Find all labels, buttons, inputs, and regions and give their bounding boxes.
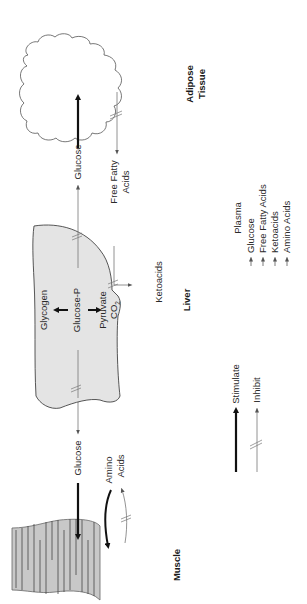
glycogen-label: Glycogen — [38, 290, 49, 330]
plasma-item-amino-acids: Amino Acids — [281, 200, 292, 253]
plasma-list: Plasma Glucose Free Fatty Acids Ketoacid… — [232, 184, 292, 266]
ketoacids-inhibit-arrow — [114, 246, 130, 285]
legend: Stimulate Inhibit — [230, 364, 262, 472]
liver-label: Liver — [181, 288, 192, 311]
plasma-item-glucose: Glucose — [245, 218, 256, 253]
ffa-label-line2: Acids — [120, 170, 131, 193]
muscle-shape — [12, 515, 100, 603]
amino-acids-inhibit-arrow — [122, 490, 127, 543]
ffa-label-line1: Free Fatty — [108, 160, 119, 204]
adipose-cloud-shape — [20, 34, 122, 142]
amino-label-line2: Acids — [115, 454, 126, 477]
ketoacids-label: Ketoacids — [153, 261, 164, 303]
adipose-glucose-label: Glucose — [72, 145, 83, 180]
glucose-p-label: Glucose-P — [71, 288, 82, 332]
plasma-title: Plasma — [232, 201, 243, 233]
amino-label-line1: Amino — [103, 457, 114, 484]
metabolism-diagram: Muscle Glucose Amino Acids Liver Glycoge… — [0, 0, 307, 604]
plasma-item-ketoacids: Ketoacids — [269, 211, 280, 253]
adipose-label-line2: Tissue — [196, 69, 207, 99]
muscle-glucose-label: Glucose — [72, 441, 83, 476]
adipose-label-line1: Adipose — [184, 65, 195, 102]
legend-inhibit-label: Inhibit — [251, 377, 262, 403]
legend-stimulate-label: Stimulate — [230, 364, 241, 404]
plasma-item-free-fatty-acids: Free Fatty Acids — [257, 184, 268, 253]
muscle-label: Muscle — [171, 549, 182, 581]
amino-acids-stimulate-arrow — [105, 490, 111, 546]
